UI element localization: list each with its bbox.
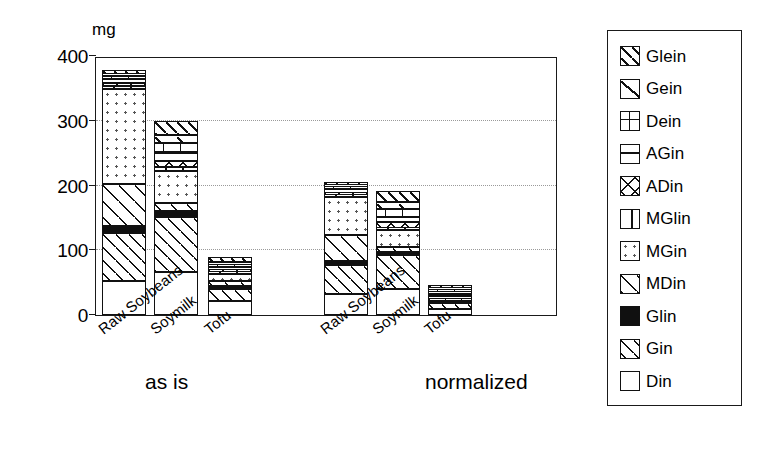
legend-item-agin[interactable]: AGin (620, 138, 741, 171)
y-axis-tick-labels: 0100200300400 (22, 0, 88, 449)
legend-item-glein[interactable]: Glein (620, 40, 741, 73)
bar-segment-dein[interactable] (208, 264, 252, 267)
bar-segment-mdin[interactable] (154, 203, 198, 211)
bar-3[interactable] (208, 257, 252, 315)
bar-6[interactable] (428, 285, 472, 315)
y-axis-unit-label: mg (92, 20, 116, 40)
legend-item-gin[interactable]: Gin (620, 333, 741, 366)
legend-swatch-icon-din (620, 371, 640, 391)
y-tick-label: 300 (57, 111, 88, 133)
bar-segment-mdin[interactable] (208, 281, 252, 286)
bar-1[interactable] (102, 70, 146, 315)
bar-segment-mdin[interactable] (376, 247, 420, 252)
legend-label: Gein (646, 80, 682, 97)
bar-segment-agin[interactable] (102, 79, 146, 83)
legend-label: Dein (646, 113, 681, 130)
bar-segment-glein[interactable] (208, 257, 252, 262)
bar-segment-glin[interactable] (324, 261, 368, 266)
legend-item-din[interactable]: Din (620, 365, 741, 398)
bar-segment-adin[interactable] (376, 222, 420, 227)
bar-segment-gin[interactable] (102, 233, 146, 280)
legend-label: Gin (646, 340, 673, 357)
y-tick-label: 200 (57, 176, 88, 198)
legend-item-mdin[interactable]: MDin (620, 268, 741, 301)
bar-segment-glein[interactable] (324, 182, 368, 185)
bar-segment-mdin[interactable] (102, 184, 146, 227)
y-tick-mark (89, 249, 96, 250)
legend-label: Glin (646, 308, 677, 325)
bar-segment-glein[interactable] (154, 121, 198, 135)
bar-segment-gein[interactable] (376, 202, 420, 208)
bar-segment-glein[interactable] (376, 191, 420, 202)
chart-root: mg 0100200300400 Raw SoybeansSoymilkTofu… (0, 0, 759, 449)
legend-label: Glein (646, 48, 686, 65)
bar-segment-gein[interactable] (154, 135, 198, 143)
bar-segment-glein[interactable] (102, 70, 146, 74)
legend-item-mglin[interactable]: MGlin (620, 203, 741, 236)
legend-swatch-icon-mglin (620, 209, 640, 229)
group-label-normalized: normalized (425, 370, 528, 394)
legend-swatch-icon-mgin (620, 241, 640, 261)
legend-item-dein[interactable]: Dein (620, 105, 741, 138)
legend-swatch-icon-dein (620, 111, 640, 131)
bar-segment-dein[interactable] (376, 209, 420, 217)
legend-item-gein[interactable]: Gein (620, 73, 741, 106)
legend-swatch-icon-mdin (620, 274, 640, 294)
bar-segment-mdin[interactable] (324, 235, 368, 261)
bar-segment-mdin[interactable] (428, 298, 472, 301)
bar-segment-dein[interactable] (154, 143, 198, 153)
legend-swatch-icon-glein (620, 46, 640, 66)
legend-label: MDin (646, 275, 686, 292)
group-label-as-is: as is (145, 370, 188, 394)
bar-segment-glein[interactable] (428, 285, 472, 288)
y-tick-mark (89, 120, 96, 121)
bar-segment-mglin[interactable] (102, 86, 146, 89)
y-tick-label: 400 (57, 46, 88, 68)
bar-segment-gein[interactable] (208, 262, 252, 265)
bar-segment-glin[interactable] (376, 252, 420, 256)
bar-segment-gin[interactable] (428, 303, 472, 308)
bar-segment-agin[interactable] (324, 189, 368, 192)
legend-swatch-icon-agin (620, 144, 640, 164)
bar-segment-adin[interactable] (102, 83, 146, 86)
bar-segment-mglin[interactable] (376, 227, 420, 230)
bar-segment-glin[interactable] (102, 226, 146, 233)
bar-segment-dein[interactable] (324, 186, 368, 189)
bar-segment-agin[interactable] (208, 267, 252, 270)
bar-segment-glin[interactable] (208, 286, 252, 289)
legend-label: MGin (646, 243, 687, 260)
legend-item-adin[interactable]: ADin (620, 170, 741, 203)
bar-segment-mgin[interactable] (154, 171, 198, 203)
bar-segment-mgin[interactable] (324, 197, 368, 235)
bar-segment-mgin[interactable] (376, 230, 420, 247)
bar-segment-adin[interactable] (154, 161, 198, 167)
y-tick-label: 100 (57, 240, 88, 262)
bar-segment-mglin[interactable] (154, 167, 198, 171)
legend-label: Din (646, 373, 672, 390)
y-tick-label: 0 (78, 305, 88, 327)
bar-segment-agin[interactable] (376, 217, 420, 223)
legend-swatch-icon-gin (620, 339, 640, 359)
bar-segment-glin[interactable] (154, 211, 198, 217)
legend-swatch-icon-gein (620, 79, 640, 99)
bar-segment-dein[interactable] (102, 76, 146, 79)
bar-segment-agin[interactable] (154, 153, 198, 161)
bar-segment-adin[interactable] (324, 192, 368, 195)
y-tick-mark (89, 314, 96, 315)
bar-segment-mgin[interactable] (208, 274, 252, 282)
y-tick-mark (89, 185, 96, 186)
legend-item-mgin[interactable]: MGin (620, 235, 741, 268)
legend-item-glin[interactable]: Glin (620, 300, 741, 333)
bar-segment-mgin[interactable] (428, 296, 472, 299)
legend: GleinGeinDeinAGinADinMGlinMGinMDinGlinGi… (607, 30, 742, 406)
bar-segment-mgin[interactable] (102, 89, 146, 184)
legend-label: ADin (646, 178, 683, 195)
legend-swatch-icon-adin (620, 176, 640, 196)
legend-label: MGlin (646, 210, 691, 227)
legend-swatch-icon-glin (620, 306, 640, 326)
legend-label: AGin (646, 145, 684, 162)
bar-segment-gin[interactable] (208, 289, 252, 301)
y-tick-mark (89, 55, 96, 56)
